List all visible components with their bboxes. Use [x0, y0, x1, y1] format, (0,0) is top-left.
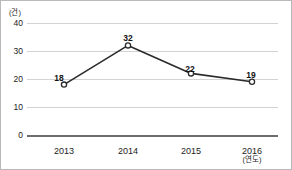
plot-area: (건) 40 30 20 10 0 18 32 22 19 2013 2014 …	[1, 1, 292, 170]
point-label-2016: 19	[236, 71, 266, 80]
x-tick-label-2014: 2014	[98, 146, 158, 156]
data-series-line	[1, 1, 292, 170]
x-axis-unit-label: (연도)	[222, 156, 282, 164]
point-label-2015: 22	[175, 65, 205, 74]
data-point-marker-2014	[125, 43, 130, 48]
point-label-2014: 32	[113, 34, 143, 43]
chart-figure: (건) 40 30 20 10 0 18 32 22 19 2013 2014 …	[0, 0, 292, 170]
x-tick-label-2015: 2015	[161, 146, 221, 156]
point-label-2013: 18	[44, 74, 74, 83]
x-tick-label-2013: 2013	[34, 146, 94, 156]
